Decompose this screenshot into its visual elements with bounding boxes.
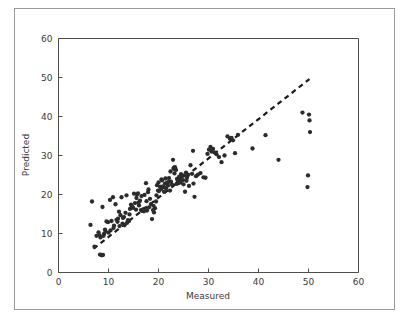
scatter-point [305, 185, 309, 189]
scatter-point [134, 196, 138, 200]
scatter-point [183, 190, 187, 194]
scatter-point [152, 210, 156, 214]
x-tick-label: 30 [203, 277, 215, 287]
scatter-point [136, 201, 140, 205]
scatter-point [191, 181, 195, 185]
x-tick-label: 40 [253, 277, 265, 287]
scatter-point [161, 185, 165, 189]
x-tick-label: 50 [303, 277, 315, 287]
scatter-point [113, 202, 117, 206]
scatter-point [144, 181, 148, 185]
scatter-point [154, 199, 158, 203]
scatter-point [300, 110, 304, 114]
scatter-point [123, 211, 127, 215]
scatter-point [119, 195, 123, 199]
scatter-point [100, 205, 104, 209]
scatter-point [308, 130, 312, 134]
y-tick-label: 10 [41, 229, 53, 239]
scatter-point [111, 226, 115, 230]
scatter-point [186, 173, 190, 177]
scatter-point [217, 155, 221, 159]
x-axis-label: Measured [186, 291, 230, 301]
scatter-point [134, 208, 138, 212]
y-axis-label: Predicted [21, 134, 31, 176]
scatter-point [124, 193, 128, 197]
scatter-point [142, 193, 146, 197]
scatter-point [172, 171, 176, 175]
scatter-point [156, 180, 160, 184]
scatter-point [159, 177, 163, 181]
scatter-point [181, 182, 185, 186]
scatter-point [188, 163, 192, 167]
scatter-point [122, 215, 126, 219]
scatter-point [307, 112, 311, 116]
scatter-point [109, 219, 113, 223]
x-tick-label: 20 [153, 277, 165, 287]
scatter-point [166, 180, 170, 184]
scatter-point [151, 204, 155, 208]
scatter-point [170, 183, 174, 187]
scatter-point [306, 173, 310, 177]
scatter-point [205, 152, 209, 156]
scatter-point [168, 188, 172, 192]
scatter-point [88, 223, 92, 227]
scatter-point [98, 235, 102, 239]
scatter-point [171, 158, 175, 162]
scatter-point [184, 179, 188, 183]
scatter-point [219, 160, 223, 164]
scatter-point [231, 138, 235, 142]
scatter-point [307, 118, 311, 122]
figure-root: 0102030405060 0102030405060 Measured Pre… [0, 0, 408, 319]
scatter-point [222, 153, 226, 157]
y-tick-label: 0 [47, 268, 53, 278]
scatter-point [190, 172, 194, 176]
scatter-point [187, 184, 191, 188]
scatter-point [263, 133, 267, 137]
scatter-point [115, 220, 119, 224]
y-axis-ticks: 0102030405060 [41, 34, 62, 278]
x-tick-label: 0 [56, 277, 62, 287]
scatter-point [125, 221, 129, 225]
x-tick-label: 60 [353, 277, 365, 287]
y-tick-label: 50 [41, 73, 53, 83]
scatter-point [148, 197, 152, 201]
scatter-point [103, 229, 107, 233]
scatter-point [90, 199, 94, 203]
scatter-point [101, 253, 105, 257]
scatter-point [168, 169, 172, 173]
scatter-point [146, 187, 150, 191]
scatter-point [144, 199, 148, 203]
scatter-point [192, 195, 196, 199]
scatter-point [233, 151, 237, 155]
scatter-point [150, 217, 154, 221]
y-tick-label: 30 [41, 151, 53, 161]
scatter-point [136, 191, 140, 195]
scatter-point [154, 193, 158, 197]
scatter-point [127, 212, 131, 216]
scatter-point [163, 176, 167, 180]
x-tick-label: 10 [103, 277, 115, 287]
y-tick-label: 60 [41, 34, 53, 44]
scatter-point [92, 245, 96, 249]
scatter-point [111, 195, 115, 199]
scatter-point [236, 133, 240, 137]
scatter-point [203, 176, 207, 180]
x-axis-ticks: 0102030405060 [56, 269, 365, 287]
y-tick-label: 20 [41, 190, 53, 200]
scatter-plot: 0102030405060 0102030405060 Measured Pre… [0, 0, 408, 319]
scatter-point [191, 149, 195, 153]
scatter-point [276, 158, 280, 162]
scatter-point [250, 146, 254, 150]
scatter-point [198, 171, 202, 175]
scatter-markers [88, 110, 312, 257]
y-tick-label: 40 [41, 112, 53, 122]
